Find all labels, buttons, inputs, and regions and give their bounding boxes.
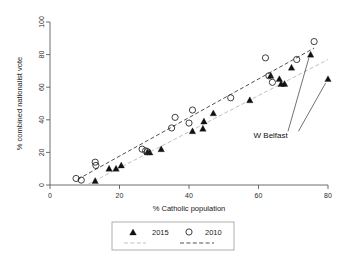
y-tick-label-80: 80 xyxy=(38,51,45,59)
data-point-2015 xyxy=(106,165,112,171)
x-tick-labels: 0 20 40 60 80 xyxy=(48,192,332,199)
y-tick-label-100: 100 xyxy=(38,16,45,28)
data-point-2015 xyxy=(276,76,282,82)
y-tick-label-20: 20 xyxy=(38,148,45,156)
data-point-2015 xyxy=(118,162,124,168)
x-tick-label-80: 80 xyxy=(324,192,332,199)
x-tick-marks xyxy=(50,185,328,189)
data-point-2010 xyxy=(189,107,195,113)
data-point-2015 xyxy=(307,51,313,57)
annotation-arrow-2 xyxy=(298,83,325,131)
series-2015-markers xyxy=(92,51,331,183)
y-tick-labels: 0 20 40 60 80 100 xyxy=(38,16,45,187)
data-point-2015 xyxy=(200,125,206,131)
data-point-2010 xyxy=(262,55,268,61)
x-tick-label-20: 20 xyxy=(116,192,124,199)
data-point-2010 xyxy=(269,79,275,85)
data-point-2015 xyxy=(288,64,294,70)
data-point-2010 xyxy=(186,120,192,126)
y-tick-label-0: 0 xyxy=(38,183,45,187)
data-point-2015 xyxy=(247,97,253,103)
legend: 2015 2010 xyxy=(112,222,234,250)
chart-figure: 0 20 40 60 80 100 0 20 40 60 80 % Cathol… xyxy=(0,0,344,255)
x-tick-label-60: 60 xyxy=(255,192,263,199)
axes-group xyxy=(50,22,328,185)
data-point-2015 xyxy=(158,146,164,152)
fit-line-2015-fit xyxy=(88,59,328,184)
y-tick-label-40: 40 xyxy=(38,116,45,124)
x-axis-title: % Catholic population xyxy=(153,204,226,213)
data-point-2010 xyxy=(228,95,234,101)
data-point-2010 xyxy=(172,114,178,120)
legend-label-2010: 2010 xyxy=(205,228,222,237)
series-2010-markers xyxy=(73,38,317,183)
data-point-2015 xyxy=(201,118,207,124)
data-point-2015 xyxy=(92,178,98,184)
x-tick-label-40: 40 xyxy=(185,192,193,199)
x-tick-label-0: 0 xyxy=(48,192,52,199)
y-tick-marks xyxy=(46,22,50,185)
fit-line-2010-fit xyxy=(78,48,314,179)
data-point-2015 xyxy=(189,128,195,134)
scatter-plot: 0 20 40 60 80 100 0 20 40 60 80 % Cathol… xyxy=(0,0,344,255)
data-point-2015 xyxy=(210,110,216,116)
y-tick-label-60: 60 xyxy=(38,83,45,91)
data-point-2015 xyxy=(325,76,331,82)
y-axis-title: % combined nationalist vote xyxy=(15,57,24,150)
legend-label-2015: 2015 xyxy=(152,228,169,237)
annotation-label-w-belfast: W Belfast xyxy=(254,131,289,140)
data-point-2010 xyxy=(311,38,317,44)
